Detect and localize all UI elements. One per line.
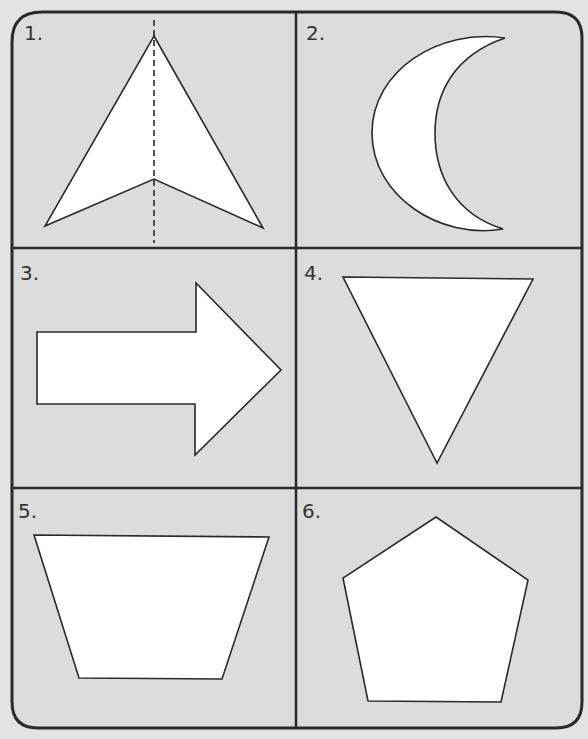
cell-5-label: 5. bbox=[18, 499, 37, 523]
cell-6-label: 6. bbox=[302, 499, 321, 523]
worksheet-grid: 1. 2. 3. 4. 5. 6. bbox=[0, 0, 588, 739]
cell-4-label: 4. bbox=[304, 261, 323, 285]
cell-2-label: 2. bbox=[306, 21, 325, 45]
cell-1-label: 1. bbox=[24, 21, 43, 45]
cell-3-label: 3. bbox=[20, 261, 39, 285]
